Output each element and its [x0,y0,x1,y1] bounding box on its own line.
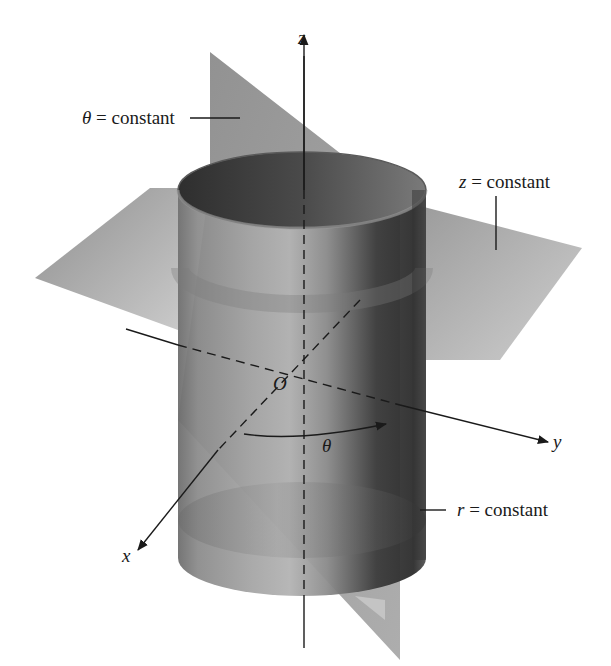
theta-eq-text: = constant [91,107,175,128]
cylindrical-coordinates-diagram: z y x O θ θ = constant z = constant r = … [0,0,611,666]
z-constant-plane-left [35,188,178,330]
z-constant-label: z = constant [458,171,551,192]
origin-label: O [273,373,287,394]
z-axis-label: z [297,27,306,48]
theta-symbol: θ [82,107,91,128]
theta-angle-label: θ [322,435,331,456]
x-axis-label: x [121,545,131,566]
z-constant-plane-right [420,206,582,360]
theta-constant-label: θ = constant [82,107,176,128]
z-eq-text: = constant [466,171,550,192]
r-constant-cylinder [178,152,426,596]
r-eq-text: = constant [464,499,548,520]
r-constant-label: r = constant [457,499,549,520]
y-axis-label: y [551,431,562,452]
